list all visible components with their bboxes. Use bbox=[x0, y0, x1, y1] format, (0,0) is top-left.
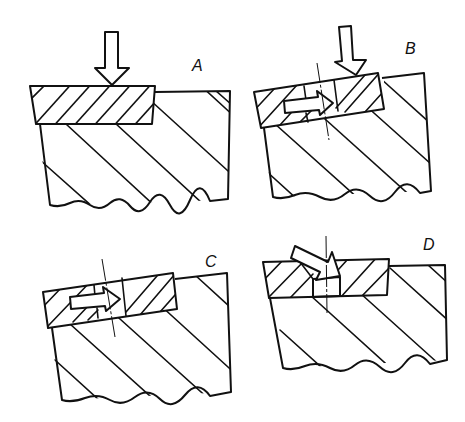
panel-b: B bbox=[250, 26, 440, 220]
panel-a: A bbox=[20, 32, 260, 240]
insert-divider bbox=[122, 278, 126, 316]
panel-c: C bbox=[40, 253, 240, 410]
diagonal-arrow-icon bbox=[291, 246, 340, 280]
panel-label-a: A bbox=[191, 57, 203, 74]
right-arrow-icon bbox=[284, 91, 333, 115]
down-arrow-icon bbox=[95, 32, 129, 85]
plug-divider bbox=[97, 308, 98, 318]
panel-label-c: C bbox=[205, 253, 217, 270]
diagram-figure: A B bbox=[0, 0, 465, 422]
panel-label-d: D bbox=[423, 236, 435, 253]
base-block-outline bbox=[270, 265, 447, 372]
center-line bbox=[326, 236, 327, 313]
insert-divider bbox=[334, 80, 338, 111]
down-arrow-icon bbox=[335, 26, 366, 75]
panel-d: D bbox=[262, 236, 450, 375]
panel-label-b: B bbox=[405, 40, 416, 57]
